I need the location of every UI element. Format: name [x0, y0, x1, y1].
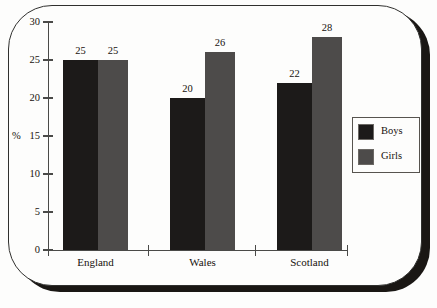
legend-box: Boys Girls — [352, 117, 420, 173]
category-label-scotland: Scotland — [255, 257, 365, 268]
bar-value-england-girls: 25 — [96, 46, 130, 57]
bar-value-scotland-girls: 28 — [310, 23, 344, 34]
bar-value-wales-girls: 26 — [203, 38, 237, 49]
category-label-england: England — [41, 257, 151, 268]
bar-wales-girls — [205, 52, 235, 250]
category-label-wales: Wales — [148, 257, 258, 268]
legend-swatch-girls — [358, 149, 374, 165]
bar-scotland-boys — [277, 83, 312, 250]
bar-value-wales-boys: 20 — [171, 84, 205, 95]
legend-swatch-boys — [358, 124, 374, 140]
x-axis-line — [48, 250, 347, 251]
bar-value-england-boys: 25 — [64, 46, 98, 57]
bar-england-boys — [63, 60, 98, 250]
bar-england-girls — [98, 60, 128, 250]
bar-value-scotland-boys: 22 — [278, 69, 312, 80]
legend-label-girls: Girls — [381, 151, 402, 162]
plot-area: 051015202530 % 252520262228 EnglandWales… — [0, 0, 437, 308]
legend-label-boys: Boys — [381, 126, 403, 137]
bar-wales-boys — [170, 98, 205, 250]
bar-scotland-girls — [312, 37, 342, 250]
chart-screenshot: 051015202530 % 252520262228 EnglandWales… — [0, 0, 437, 308]
